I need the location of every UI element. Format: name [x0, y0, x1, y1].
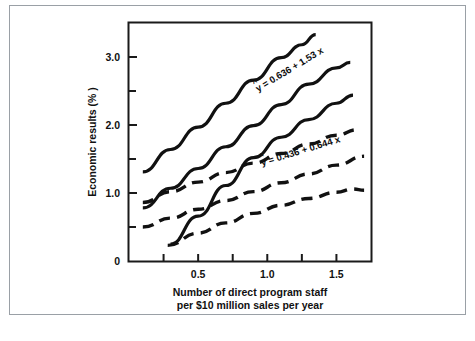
y-axis-title: Economic results (% ) [86, 87, 98, 197]
figure-container: 0.51.01.5 01.02.03.0 ^y = 0.636 + 1.53 x… [0, 0, 475, 341]
x-axis-title-line-2: per $10 million sales per year [177, 299, 324, 311]
x-axis-tick-labels: 0.51.01.5 [191, 268, 344, 280]
x-tick-label: 1.5 [329, 268, 344, 280]
x-tick-label: 0.5 [191, 268, 206, 280]
y-tick-label: 3.0 [105, 51, 120, 63]
x-tick-label: 1.0 [260, 268, 275, 280]
x-axis-title-line-1: Number of direct program staff [173, 286, 328, 298]
y-tick-label: 0 [114, 255, 120, 267]
cropped-caption-ghost [0, 322, 475, 334]
y-tick-label: 2.0 [105, 119, 120, 131]
y-tick-label: 1.0 [105, 187, 120, 199]
economic-results-chart: 0.51.01.5 01.02.03.0 ^y = 0.636 + 1.53 x… [0, 0, 475, 341]
y-axis-tick-labels: 01.02.03.0 [105, 51, 120, 267]
